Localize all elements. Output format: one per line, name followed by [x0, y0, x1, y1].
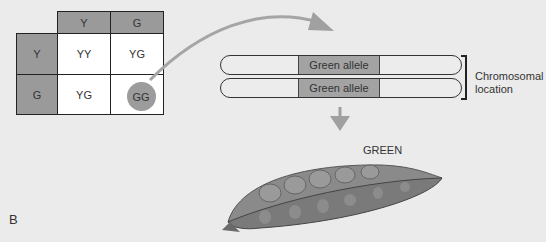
chromosome-2: Green allele	[220, 78, 462, 98]
chromosome-1: Green allele	[220, 55, 462, 75]
pea-pod-illustration	[220, 160, 450, 235]
chromosomal-location-label: Chromosomal location	[475, 70, 543, 96]
green-allele-band-1: Green allele	[298, 56, 380, 74]
green-allele-band-2: Green allele	[298, 79, 380, 97]
phenotype-label: GREEN	[363, 144, 402, 157]
panel-label: B	[9, 213, 18, 226]
